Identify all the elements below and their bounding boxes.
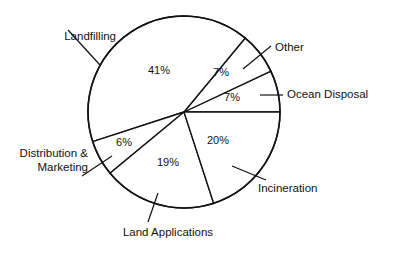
pie-category-label-distribution-marketing: Distribution &Marketing (20, 147, 89, 173)
pie-chart-canvas: 7% 7% 41% 6% 19% 20% Ocean Disposal Othe… (0, 0, 393, 253)
pie-category-label-ocean-disposal: Ocean Disposal (287, 88, 368, 100)
pie-value-label-distribution-marketing: 6% (116, 136, 132, 148)
pie-chart-figure: 7% 7% 41% 6% 19% 20% Ocean Disposal Othe… (0, 0, 393, 253)
pie-category-label-landfilling: Landfilling (64, 30, 116, 42)
pie-category-label-land-applications: Land Applications (123, 226, 213, 238)
pie-value-label-incineration: 20% (207, 134, 229, 146)
pie-value-label-land-applications: 19% (157, 156, 179, 168)
pie-category-label-incineration: Incineration (258, 182, 317, 194)
pie-slices-group (88, 16, 280, 208)
pie-value-label-other: 7% (213, 66, 229, 78)
pie-value-label-landfilling: 41% (148, 64, 170, 76)
pie-value-label-ocean-disposal: 7% (224, 91, 240, 103)
pie-category-label-other: Other (275, 41, 304, 53)
